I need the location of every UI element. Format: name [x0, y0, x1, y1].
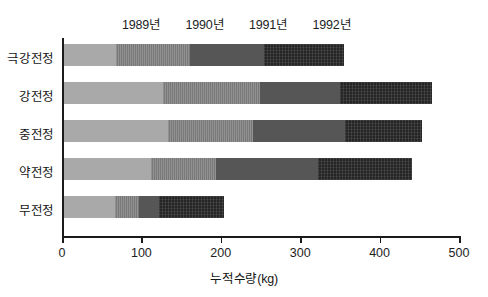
bar-segment	[139, 196, 160, 218]
bar-row	[64, 120, 422, 142]
category-label: 강전정	[0, 86, 54, 105]
legend: 1989년1990년1991년1992년	[62, 14, 459, 34]
stacked-bar-chart: 1989년1990년1991년1992년 0100200300400500 누적…	[0, 0, 488, 297]
bar-segment	[64, 82, 163, 104]
x-axis-tick-label: 300	[290, 246, 311, 260]
category-label: 극강전정	[0, 48, 54, 67]
x-axis-tick	[380, 236, 382, 243]
x-axis-line	[62, 236, 460, 238]
bar-row	[64, 82, 432, 104]
bar-segment	[163, 82, 260, 104]
bar-segment	[253, 120, 345, 142]
legend-item-1991년: 1991년	[249, 14, 288, 33]
bar-segment	[345, 120, 422, 142]
bar-segment	[340, 82, 431, 104]
plot-area: 0100200300400500	[62, 38, 459, 236]
bar-segment	[190, 44, 264, 66]
x-axis-tick	[221, 236, 223, 243]
bar-segment	[318, 158, 412, 180]
bar-segment	[168, 120, 253, 142]
bar-segment	[151, 158, 215, 180]
bar-segment	[260, 82, 340, 104]
legend-item-1992년: 1992년	[313, 14, 352, 33]
legend-item-1990년: 1990년	[186, 14, 225, 33]
category-label: 무전정	[0, 200, 54, 219]
bar-segment	[216, 158, 318, 180]
bar-segment	[264, 44, 344, 66]
category-label: 약전정	[0, 162, 54, 181]
bar-segment	[64, 120, 168, 142]
bar-row	[64, 196, 224, 218]
x-axis-tick	[141, 236, 143, 243]
x-axis-tick-label: 400	[369, 246, 390, 260]
x-axis-tick-label: 100	[131, 246, 152, 260]
bar-row	[64, 158, 412, 180]
bar-segment	[115, 196, 139, 218]
bar-segment	[64, 44, 116, 66]
x-axis-tick-label: 0	[59, 246, 66, 260]
bar-segment	[159, 196, 224, 218]
legend-item-1989년: 1989년	[122, 14, 161, 33]
x-axis-title: 누적수량(kg)	[0, 268, 488, 287]
x-axis-tick	[459, 236, 461, 243]
x-axis-tick	[300, 236, 302, 243]
bar-row	[64, 44, 344, 66]
category-label: 중전정	[0, 124, 54, 143]
bar-segment	[64, 158, 151, 180]
bar-segment	[64, 196, 115, 218]
bar-segment	[116, 44, 191, 66]
x-axis-tick-label: 200	[210, 246, 231, 260]
x-axis-tick-label: 500	[449, 246, 470, 260]
x-axis-tick	[62, 236, 64, 243]
